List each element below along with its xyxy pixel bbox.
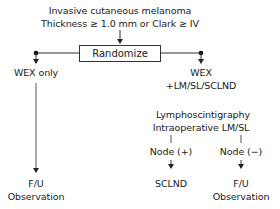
procedure-line-2: Intraoperative LM/SL (151, 122, 251, 133)
randomize-label: Randomize (92, 48, 148, 59)
node-negative-label: Node (−) (216, 146, 266, 157)
right-arm-label-line-2: +LM/SL/SCLND (161, 80, 241, 91)
header-line-1: Invasive cutaneous melanoma (40, 5, 200, 16)
node-negative-outcome-line-2: Observation (206, 191, 276, 202)
node-positive-label: Node (+) (146, 146, 196, 157)
left-arm-label: WEX only (6, 67, 66, 78)
right-arm-label-line-1: WEX (171, 67, 231, 78)
randomize-box: Randomize (79, 45, 161, 62)
procedure-line-1: Lymphoscintigraphy (156, 109, 246, 120)
header-line-2: Thickness ≥ 1.0 mm or Clark ≥ IV (30, 18, 210, 29)
left-outcome-line-2: Observation (1, 191, 71, 202)
node-positive-outcome: SCLND (146, 178, 196, 189)
left-outcome-line-1: F/U (6, 178, 66, 189)
node-negative-outcome-line-1: F/U (216, 178, 266, 189)
